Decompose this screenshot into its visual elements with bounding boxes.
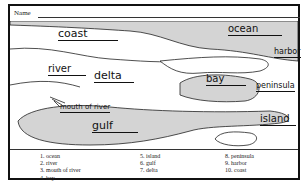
key-item: 1. ocean xyxy=(40,153,81,160)
island-land xyxy=(215,132,257,146)
label-ocean: ocean xyxy=(228,24,282,36)
label-coast: coast xyxy=(58,28,118,41)
label-river: river xyxy=(48,64,86,76)
label-bay: bay xyxy=(206,74,246,86)
landform-map xyxy=(10,21,298,149)
key-column-3: 8. peninsula 9. harbor 10. coast xyxy=(225,153,254,175)
label-island: island xyxy=(260,114,296,126)
key-column-2: 5. island 6. gulf 7. delta xyxy=(140,153,160,175)
key-item: 2. river xyxy=(40,160,81,167)
key-item: 3. mouth of river xyxy=(40,167,81,174)
river-line xyxy=(10,81,80,87)
key-item: 9. harbor xyxy=(225,160,254,167)
coast-line xyxy=(10,48,190,62)
label-peninsula: peninsula xyxy=(256,82,295,92)
key-item: 5. island xyxy=(140,153,160,160)
key-item: 10. coast xyxy=(225,167,254,174)
label-gulf: gulf xyxy=(92,120,138,133)
key-item: 8. peninsula xyxy=(225,153,254,160)
label-delta: delta xyxy=(94,70,134,83)
key-item: 4. bay xyxy=(40,175,81,182)
key-column-1: 1. ocean 2. river 3. mouth of river 4. b… xyxy=(40,153,81,182)
key-item: 6. gulf xyxy=(140,160,160,167)
label-mouth-of-river: mouth of river xyxy=(60,104,110,113)
name-field-line[interactable] xyxy=(38,17,300,18)
worksheet: Name coast ocean harbor river delta bay … xyxy=(8,4,300,180)
harbor-land xyxy=(160,57,268,74)
key-item: 7. delta xyxy=(140,167,160,174)
word-key: 1. ocean 2. river 3. mouth of river 4. b… xyxy=(10,149,298,180)
label-harbor: harbor xyxy=(274,48,301,58)
name-label: Name xyxy=(14,9,31,17)
